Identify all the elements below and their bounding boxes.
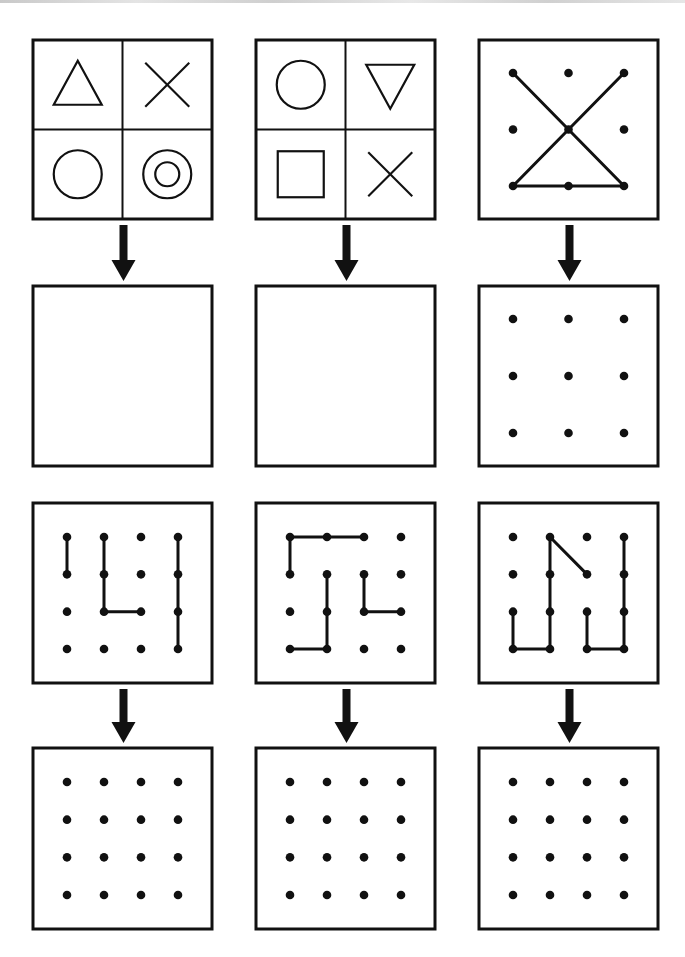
grid-dot (137, 533, 146, 542)
grid-dot (286, 570, 295, 579)
grid-dot (323, 570, 332, 579)
grid-dot (620, 891, 629, 900)
grid-dot (546, 891, 555, 900)
grid-dot (137, 570, 146, 579)
grid-dot (174, 570, 183, 579)
grid-dot (360, 570, 369, 579)
grid-dot (100, 645, 109, 654)
grid-dot (286, 645, 295, 654)
panel-border[interactable] (479, 748, 658, 929)
arrow-head (112, 722, 136, 743)
grid-dot (583, 778, 592, 787)
grid-dot (286, 891, 295, 900)
answer-dot-grid-3x3[interactable] (479, 286, 658, 466)
grid-dot (360, 853, 369, 862)
grid-dot (63, 778, 72, 787)
grid-dot (360, 645, 369, 654)
arrow-down-icon (335, 689, 359, 743)
grid-dot (583, 570, 592, 579)
grid-dot (360, 533, 369, 542)
panel-border[interactable] (33, 748, 212, 929)
grid-dot (583, 533, 592, 542)
grid-dot (397, 891, 406, 900)
grid-dot (509, 125, 518, 134)
grid-dot (323, 778, 332, 787)
grid-dot (509, 429, 518, 438)
grid-dot (397, 853, 406, 862)
grid-dot (620, 372, 629, 381)
grid-dot (564, 69, 573, 78)
grid-dot (564, 125, 573, 134)
grid-dot (174, 815, 183, 824)
grid-dot (286, 778, 295, 787)
grid-dot (509, 533, 518, 542)
grid-dot (63, 815, 72, 824)
grid-dot (620, 815, 629, 824)
grid-dot (100, 778, 109, 787)
arrow-shaft (120, 689, 128, 723)
panel-border[interactable] (256, 748, 435, 929)
row-4-answers (33, 748, 658, 929)
grid-dot (174, 778, 183, 787)
row-2-answers (33, 286, 658, 466)
answer-dot-grid-4x4-1[interactable] (33, 748, 212, 929)
grid-dot (620, 645, 629, 654)
grid-dot (583, 645, 592, 654)
grid-dot (564, 315, 573, 324)
grid-dot (546, 853, 555, 862)
grid-dot (620, 182, 629, 191)
answer-dot-grid-4x4-3[interactable] (479, 748, 658, 929)
grid-dot (546, 645, 555, 654)
dot-pattern-4x4-model-2 (256, 503, 435, 683)
grid-dot (509, 815, 518, 824)
arrow-down-icon (112, 689, 136, 743)
grid-dot (286, 815, 295, 824)
arrow-shaft (120, 225, 128, 261)
grid-dot (620, 607, 629, 616)
arrow-down-icon (558, 689, 582, 743)
panel-border[interactable] (256, 286, 435, 466)
grid-dot (63, 607, 72, 616)
grid-dot (63, 570, 72, 579)
arrow-head (558, 260, 582, 281)
grid-dot (323, 891, 332, 900)
grid-dot (583, 853, 592, 862)
arrow-head (335, 260, 359, 281)
grid-dot (137, 853, 146, 862)
grid-dot (509, 778, 518, 787)
grid-dot (323, 853, 332, 862)
arrow-down-icon (558, 225, 582, 281)
arrow-shaft (343, 689, 351, 723)
arrow-down-icon (335, 225, 359, 281)
grid-dot (100, 891, 109, 900)
answer-dot-grid-4x4-2[interactable] (256, 748, 435, 929)
shapes-grid-panel-1 (33, 40, 212, 219)
grid-dot (546, 778, 555, 787)
worksheet-canvas (0, 0, 685, 957)
grid-dot (509, 315, 518, 324)
grid-dot (546, 533, 555, 542)
grid-dot (583, 607, 592, 616)
grid-dot (360, 778, 369, 787)
grid-dot (137, 607, 146, 616)
panel-border[interactable] (33, 286, 212, 466)
grid-dot (397, 645, 406, 654)
dot-pattern-4x4-model-1 (33, 503, 212, 683)
grid-dot (63, 853, 72, 862)
answer-box-2[interactable] (256, 286, 435, 466)
arrow-shaft (566, 225, 574, 261)
arrow-head (558, 722, 582, 743)
answer-box-1[interactable] (33, 286, 212, 466)
grid-dot (323, 815, 332, 824)
arrow-shaft (566, 689, 574, 723)
grid-dot (286, 607, 295, 616)
grid-dot (63, 645, 72, 654)
grid-dot (174, 853, 183, 862)
arrow-shaft (343, 225, 351, 261)
grid-dot (63, 891, 72, 900)
grid-dot (323, 533, 332, 542)
grid-dot (360, 607, 369, 616)
arrow-down-icon (112, 225, 136, 281)
grid-dot (564, 372, 573, 381)
grid-dot (509, 69, 518, 78)
